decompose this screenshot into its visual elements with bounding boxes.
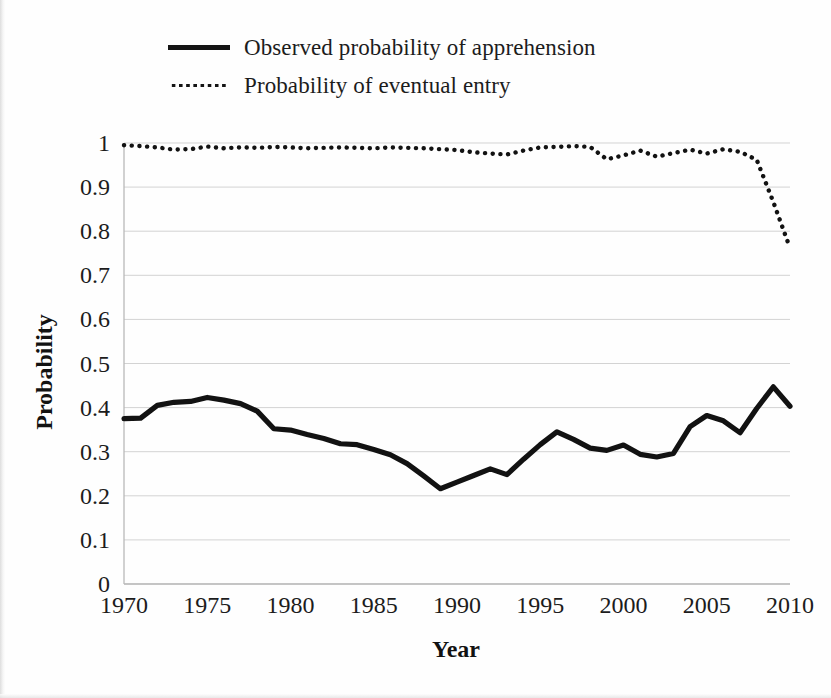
- y-tick-label-0.8: 0.8: [80, 218, 110, 244]
- series-line-eventual-entry: [124, 145, 790, 248]
- x-axis-tick-labels: 197019751980198519901995200020052010: [100, 592, 814, 618]
- x-tick-label-2010: 2010: [766, 592, 814, 618]
- y-tick-label-0.4: 0.4: [80, 395, 110, 421]
- y-axis-tick-labels: 00.10.20.30.40.50.60.70.80.91: [80, 130, 110, 597]
- series-line-observed-probability: [124, 387, 790, 489]
- x-tick-label-1990: 1990: [433, 592, 481, 618]
- y-axis-title: Probability: [31, 314, 57, 430]
- x-tick-label-1985: 1985: [350, 592, 398, 618]
- y-tick-label-0.9: 0.9: [80, 174, 110, 200]
- x-tick-label-1970: 1970: [100, 592, 148, 618]
- x-axis-title: Year: [432, 636, 480, 662]
- data-series-layer: [124, 145, 790, 489]
- chart-svg: 00.10.20.30.40.50.60.70.80.91 1970197519…: [0, 0, 831, 698]
- x-tick-label-1995: 1995: [516, 592, 564, 618]
- figure-canvas: Observed probability of apprehension Pro…: [0, 0, 831, 698]
- y-tick-label-0.1: 0.1: [80, 527, 110, 553]
- x-tick-label-2000: 2000: [600, 592, 648, 618]
- y-tick-label-0.6: 0.6: [80, 306, 110, 332]
- y-tick-label-0.3: 0.3: [80, 439, 110, 465]
- y-tick-label-1: 1: [98, 130, 110, 156]
- x-tick-label-1975: 1975: [183, 592, 231, 618]
- gridlines: [124, 143, 790, 584]
- y-tick-label-0.7: 0.7: [80, 262, 110, 288]
- y-tick-label-0.5: 0.5: [80, 351, 110, 377]
- x-tick-label-2005: 2005: [683, 592, 731, 618]
- y-tick-label-0.2: 0.2: [80, 483, 110, 509]
- x-tick-label-1980: 1980: [267, 592, 315, 618]
- plot-area: 00.10.20.30.40.50.60.70.80.91 1970197519…: [0, 0, 831, 698]
